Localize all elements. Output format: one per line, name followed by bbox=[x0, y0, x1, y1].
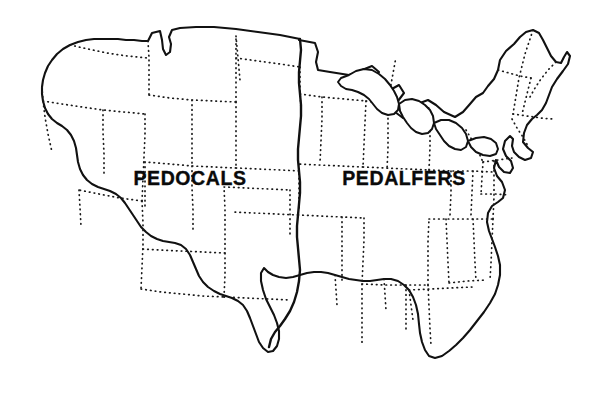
soil-region-map-figure: PEDOCALS PEDALFERS bbox=[0, 0, 603, 400]
pedalfers-region-label: PEDALFERS bbox=[342, 167, 466, 189]
state-border bbox=[79, 190, 81, 226]
us-coastline-outline bbox=[42, 27, 570, 358]
map-canvas: PEDOCALS PEDALFERS bbox=[0, 0, 603, 400]
state-border bbox=[335, 275, 337, 305]
pedocals-region-label: PEDOCALS bbox=[133, 167, 246, 189]
coastline-group bbox=[42, 27, 570, 358]
state-border bbox=[384, 279, 386, 310]
